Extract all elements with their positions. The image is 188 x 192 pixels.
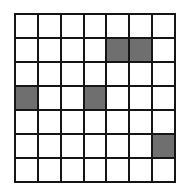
- grid-cell[interactable]: [107, 15, 128, 37]
- grid-cell[interactable]: [85, 111, 106, 133]
- grid-cell[interactable]: [153, 87, 174, 109]
- grid-cell[interactable]: [153, 15, 174, 37]
- grid-cell[interactable]: [16, 111, 37, 133]
- grid-cell[interactable]: [16, 15, 37, 37]
- grid-cell[interactable]: [107, 87, 128, 109]
- grid-cell[interactable]: [39, 15, 60, 37]
- grid-cell[interactable]: [85, 15, 106, 37]
- grid-cell[interactable]: [130, 87, 151, 109]
- grid-cell[interactable]: [62, 15, 83, 37]
- grid-cell[interactable]: [153, 111, 174, 133]
- grid-cell[interactable]: [85, 63, 106, 85]
- grid-cell[interactable]: [39, 87, 60, 109]
- grid-cell[interactable]: [85, 87, 106, 109]
- grid-cell[interactable]: [62, 87, 83, 109]
- grid-cell[interactable]: [62, 159, 83, 181]
- grid-cell[interactable]: [16, 135, 37, 157]
- grid-cell[interactable]: [130, 39, 151, 61]
- grid-cell[interactable]: [130, 111, 151, 133]
- grid-cell[interactable]: [39, 111, 60, 133]
- grid-cell[interactable]: [16, 87, 37, 109]
- grid-cell[interactable]: [107, 63, 128, 85]
- grid-container: [14, 13, 176, 183]
- grid-cell[interactable]: [16, 63, 37, 85]
- grid-cell[interactable]: [39, 135, 60, 157]
- grid-cell[interactable]: [153, 135, 174, 157]
- grid-cell[interactable]: [85, 159, 106, 181]
- grid-cell[interactable]: [153, 159, 174, 181]
- grid-cell[interactable]: [85, 135, 106, 157]
- grid-cell[interactable]: [130, 63, 151, 85]
- grid-cell[interactable]: [107, 159, 128, 181]
- grid-cell[interactable]: [153, 39, 174, 61]
- grid-cell[interactable]: [85, 39, 106, 61]
- grid-cell[interactable]: [107, 111, 128, 133]
- grid-cell[interactable]: [62, 63, 83, 85]
- cell-grid: [14, 13, 176, 183]
- grid-cell[interactable]: [130, 15, 151, 37]
- grid-cell[interactable]: [107, 39, 128, 61]
- grid-cell[interactable]: [153, 63, 174, 85]
- grid-cell[interactable]: [39, 159, 60, 181]
- grid-cell[interactable]: [107, 135, 128, 157]
- grid-cell[interactable]: [62, 39, 83, 61]
- grid-cell[interactable]: [39, 39, 60, 61]
- grid-cell[interactable]: [62, 135, 83, 157]
- grid-cell[interactable]: [130, 135, 151, 157]
- grid-cell[interactable]: [39, 63, 60, 85]
- grid-cell[interactable]: [130, 159, 151, 181]
- grid-cell[interactable]: [16, 159, 37, 181]
- figure-canvas: [0, 0, 188, 192]
- grid-cell[interactable]: [16, 39, 37, 61]
- grid-cell[interactable]: [62, 111, 83, 133]
